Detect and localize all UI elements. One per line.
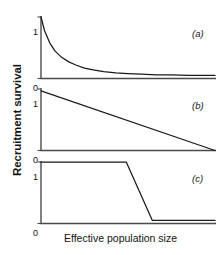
panel-c: 1 0 (c): [0, 159, 223, 229]
panel-a-ytick-top: 1: [26, 28, 38, 37]
panel-c-ytick-top: 1: [26, 173, 38, 182]
panel-c-data-curve: [41, 162, 215, 220]
figure-recruitment-survival: Recruitment survival 1 0 (a) 1 0 (b): [0, 0, 223, 255]
panel-c-label: (c): [192, 173, 203, 184]
x-axis-label: Effective population size: [0, 232, 223, 244]
panel-a-data-curve: [41, 17, 215, 75]
panel-a: 1 0 (a): [0, 14, 223, 84]
panel-c-plot: [0, 159, 223, 231]
panel-b-ytick-top: 1: [26, 100, 38, 109]
panel-b-plot: [0, 86, 223, 158]
panel-b-data-curve: [41, 91, 215, 151]
panel-a-plot: [0, 14, 223, 86]
panel-a-label: (a): [192, 28, 204, 39]
panel-b-label: (b): [192, 100, 204, 111]
panel-b: 1 0 (b): [0, 86, 223, 156]
